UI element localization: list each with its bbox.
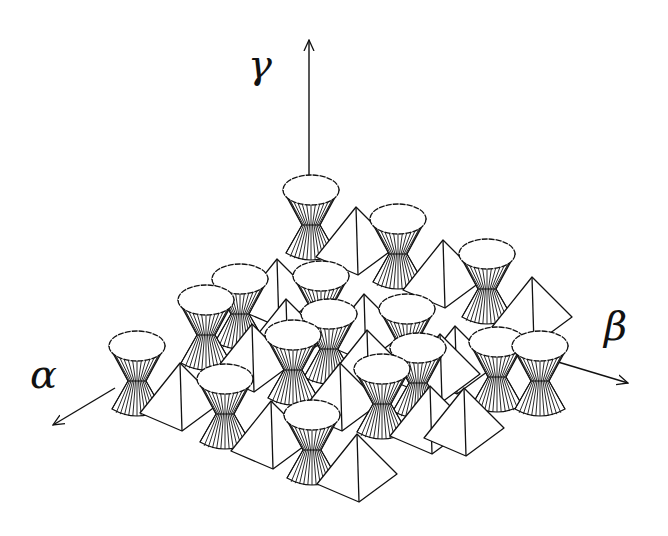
shapes-group	[109, 175, 572, 502]
beta-label: β	[602, 303, 627, 349]
alpha-axis	[53, 388, 115, 425]
hourglass-shape	[512, 331, 568, 416]
alpha-label: α	[30, 351, 57, 397]
lattice-diagram: γαβ	[0, 0, 668, 536]
gamma-label: γ	[248, 41, 272, 87]
beta-axis	[558, 362, 628, 383]
pyramid-shape	[317, 434, 397, 502]
